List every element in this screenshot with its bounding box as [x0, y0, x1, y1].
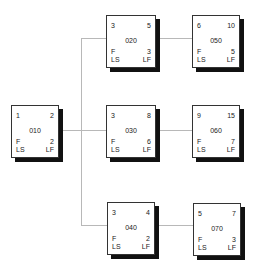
- late-start-label: LS: [198, 244, 207, 252]
- late-finish-label: LF: [227, 56, 235, 64]
- activity-id: 010: [12, 127, 58, 135]
- float-value: 3: [147, 48, 151, 56]
- late-finish-label: LF: [142, 243, 150, 251]
- float-value: 7: [231, 138, 235, 146]
- early-finish: 4: [146, 209, 150, 217]
- late-start-label: LS: [197, 146, 206, 154]
- early-start: 5: [198, 210, 202, 218]
- late-start-label: LS: [16, 146, 25, 154]
- float-label: F: [198, 236, 202, 244]
- float-label: F: [16, 138, 20, 146]
- activity-id: 060: [193, 127, 239, 135]
- late-start-label: LS: [111, 56, 120, 64]
- node-010: 1 2 010 F LS 2 LF: [11, 105, 59, 158]
- float-value: 2: [146, 235, 150, 243]
- node-070: 5 7 070 F LS 3 LF: [193, 203, 241, 256]
- connector-020-050: [160, 38, 192, 39]
- node-020: 3 5 020 F LS 3 LF: [106, 15, 156, 68]
- connector-010-trunk: [62, 130, 106, 131]
- late-start-label: LS: [112, 243, 121, 251]
- float-label: F: [111, 138, 115, 146]
- late-finish-label: LF: [143, 56, 151, 64]
- float-label: F: [197, 48, 201, 56]
- late-finish-label: LF: [228, 244, 236, 252]
- node-060: 9 15 060 F LS 7 LF: [192, 105, 240, 158]
- connector-030-060: [160, 130, 192, 131]
- connector-branch-vertical: [81, 38, 82, 226]
- activity-id: 050: [193, 37, 239, 45]
- node-040: 3 4 040 F LS 2 LF: [107, 202, 155, 255]
- connector-to-020: [81, 38, 106, 39]
- float-value: 3: [232, 236, 236, 244]
- float-label: F: [111, 48, 115, 56]
- early-start: 1: [16, 112, 20, 120]
- float-label: F: [197, 138, 201, 146]
- activity-id: 040: [108, 224, 154, 232]
- float-value: 5: [231, 48, 235, 56]
- float-value: 2: [50, 138, 54, 146]
- early-finish: 7: [232, 210, 236, 218]
- activity-id: 030: [107, 127, 155, 135]
- early-start: 6: [197, 22, 201, 30]
- late-start-label: LS: [111, 146, 120, 154]
- early-start: 9: [197, 112, 201, 120]
- node-050: 6 10 050 F LS 5 LF: [192, 15, 240, 68]
- late-start-label: LS: [197, 56, 206, 64]
- connector-040-070: [159, 225, 193, 226]
- activity-id: 070: [194, 225, 240, 233]
- late-finish-label: LF: [46, 146, 54, 154]
- early-start: 3: [112, 209, 116, 217]
- early-start: 3: [111, 22, 115, 30]
- late-finish-label: LF: [227, 146, 235, 154]
- activity-id: 020: [107, 37, 155, 45]
- node-030: 3 8 030 F LS 6 LF: [106, 105, 156, 158]
- early-finish: 8: [147, 112, 151, 120]
- connector-to-040: [81, 225, 107, 226]
- early-finish: 15: [227, 112, 235, 120]
- late-finish-label: LF: [143, 146, 151, 154]
- early-finish: 5: [147, 22, 151, 30]
- early-finish: 2: [50, 112, 54, 120]
- float-value: 6: [147, 138, 151, 146]
- early-finish: 10: [227, 22, 235, 30]
- early-start: 3: [111, 112, 115, 120]
- float-label: F: [112, 235, 116, 243]
- network-diagram: 1 2 010 F LS 2 LF 3 5 020 F LS 3 LF 3 8 …: [0, 0, 255, 275]
